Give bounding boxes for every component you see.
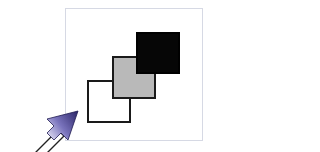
black-square <box>136 32 180 74</box>
